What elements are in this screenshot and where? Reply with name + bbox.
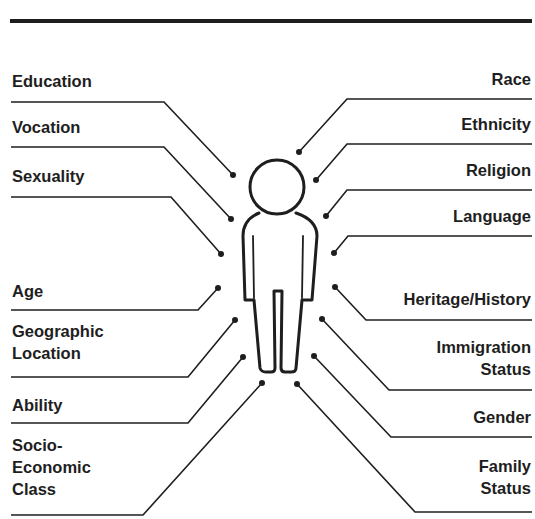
label-text-line: Religion <box>466 159 531 181</box>
connector-dot-icon <box>313 177 319 183</box>
label-text-line: Heritage/History <box>404 288 531 310</box>
connector-dot-icon <box>331 250 337 256</box>
connector-dot-icon <box>311 353 317 359</box>
label-geographic-location: GeographicLocation <box>12 320 104 364</box>
label-sexuality: Sexuality <box>12 165 84 187</box>
connector-dot-icon <box>230 172 236 178</box>
label-text-line: Ability <box>12 394 62 416</box>
label-socio-economic-class: Socio-EconomicClass <box>12 434 91 500</box>
connector-dot-icon <box>259 380 265 386</box>
label-race: Race <box>492 68 531 90</box>
connector-sexuality <box>11 197 224 257</box>
label-text-line: Ethnicity <box>461 113 531 135</box>
label-gender: Gender <box>473 406 531 428</box>
connector-dot-icon <box>332 284 338 290</box>
label-education: Education <box>12 70 92 92</box>
connector-dot-icon <box>319 316 325 322</box>
label-text-line: Sexuality <box>12 165 84 187</box>
right-arm-line <box>302 236 303 298</box>
label-text-line: Status <box>437 358 531 380</box>
leader-line <box>334 236 532 253</box>
left-arm-line <box>253 236 254 298</box>
label-text-line: Vocation <box>12 116 80 138</box>
label-language: Language <box>453 205 531 227</box>
person-head-icon <box>250 160 304 214</box>
connector-dot-icon <box>323 213 329 219</box>
label-ethnicity: Ethnicity <box>461 113 531 135</box>
label-text-line: Race <box>492 68 531 90</box>
label-age: Age <box>12 280 43 302</box>
connector-dot-icon <box>240 354 246 360</box>
label-heritage-history: Heritage/History <box>404 288 531 310</box>
label-text-line: Location <box>12 342 104 364</box>
label-text-line: Geographic <box>12 320 104 342</box>
leader-line <box>11 197 221 254</box>
person-outline-icon <box>243 160 317 372</box>
label-text-line: Age <box>12 280 43 302</box>
connector-dot-icon <box>218 251 224 257</box>
label-text-line: Economic <box>12 456 91 478</box>
label-text-line: Status <box>479 477 531 499</box>
identity-diagram: EducationVocationSexualityAgeGeographicL… <box>0 0 535 519</box>
label-text-line: Education <box>12 70 92 92</box>
label-religion: Religion <box>466 159 531 181</box>
label-text-line: Immigration <box>437 336 531 358</box>
label-text-line: Gender <box>473 406 531 428</box>
label-ability: Ability <box>12 394 62 416</box>
connector-dot-icon <box>294 381 300 387</box>
label-family-status: FamilyStatus <box>479 455 531 499</box>
connector-language <box>331 236 532 256</box>
label-text-line: Family <box>479 455 531 477</box>
label-text-line: Class <box>12 478 91 500</box>
label-text-line: Language <box>453 205 531 227</box>
label-vocation: Vocation <box>12 116 80 138</box>
connector-dot-icon <box>232 317 238 323</box>
connector-dot-icon <box>215 285 221 291</box>
connector-dot-icon <box>228 216 234 222</box>
connector-dot-icon <box>296 149 302 155</box>
label-text-line: Socio- <box>12 434 91 456</box>
label-immigration-status: ImmigrationStatus <box>437 336 531 380</box>
